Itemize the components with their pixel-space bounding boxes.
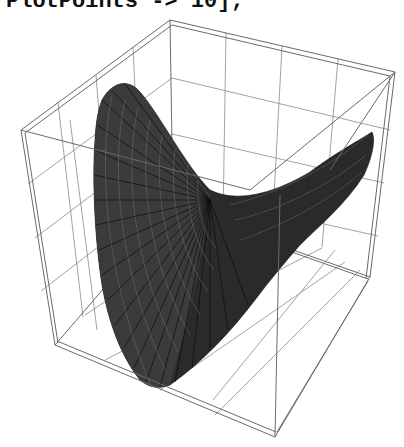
surface-plot-3d	[0, 0, 404, 447]
